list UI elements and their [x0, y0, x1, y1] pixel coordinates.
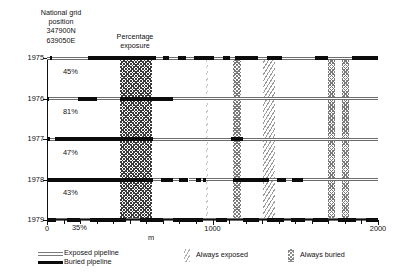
x-axis-tick [229, 220, 230, 224]
x-axis-label-0: 0 [27, 225, 67, 233]
percentage-exposure-value-1979: 35% [72, 224, 87, 232]
pipeline-segment-exposed [173, 97, 378, 100]
pipeline-segment-exposed [156, 57, 163, 60]
x-axis-tick [312, 220, 313, 224]
pipeline-segment-exposed [153, 138, 231, 141]
percentage-exposure-value-1977: 47% [63, 149, 78, 157]
pipeline-segment-exposed [303, 178, 378, 181]
pipeline-segment-buried [194, 56, 214, 60]
x-axis-tick [279, 220, 280, 224]
pipeline-segment-buried [223, 56, 230, 60]
pipeline-segment-exposed [173, 178, 180, 181]
y-axis-label-1977: 1977 [14, 135, 44, 143]
x-axis-tick [246, 220, 247, 224]
pipeline-row-1975 [47, 56, 378, 61]
pipeline-segment-buried [292, 178, 303, 182]
percentage-exposure-value-1978: 43% [63, 189, 78, 197]
legend-swatch-exposed-pipeline [38, 252, 63, 256]
pipeline-row-1976 [47, 96, 378, 101]
pipeline-segment-buried [120, 97, 173, 101]
x-axis-tick [130, 220, 131, 224]
y-axis-label-1978: 1978 [14, 176, 44, 184]
x-axis-tick [196, 220, 197, 224]
pipeline-segment-exposed [214, 57, 223, 60]
y-axis-tick [43, 99, 47, 100]
plot-area [47, 58, 378, 220]
legend-label-always-exposed: Always exposed [196, 251, 248, 259]
x-axis-tick [328, 220, 329, 224]
legend-swatch-buried-pipeline [38, 261, 63, 264]
x-axis-tick [64, 220, 65, 224]
pipeline-segment-exposed [243, 138, 378, 141]
pipeline-segment-exposed [328, 57, 351, 60]
pipeline-segment-buried [233, 178, 269, 182]
percentage-exposure-value-1976: 81% [63, 108, 78, 116]
pipeline-segment-buried [161, 178, 173, 182]
pipeline-segment-exposed [153, 178, 161, 181]
pipeline-segment-exposed [189, 178, 196, 181]
pipeline-segment-buried [55, 137, 153, 141]
x-axis-tick [113, 220, 114, 224]
x-axis-tick [361, 220, 362, 224]
pipeline-segment-buried [178, 56, 186, 60]
pipeline-row-1978 [47, 177, 378, 182]
pipeline-segment-buried [78, 97, 97, 101]
pipeline-segment-buried [231, 137, 243, 141]
pipeline-segment-buried [277, 178, 286, 182]
y-axis-label-1979: 1979 [14, 216, 44, 224]
pipeline-segment-buried [352, 56, 378, 60]
percentage-exposure-value-1975: 45% [63, 68, 78, 76]
pipeline-segment-exposed [97, 97, 120, 100]
legend-swatch-always-exposed [184, 249, 190, 262]
x-axis-tick [80, 220, 81, 224]
x-axis-tick [345, 220, 346, 224]
x-axis-tick [163, 220, 164, 224]
pipeline-segment-buried [88, 56, 156, 60]
pipeline-segment-exposed [169, 57, 178, 60]
x-axis-tick [97, 220, 98, 224]
y-axis-tick [43, 180, 47, 181]
legend-label-buried-pipeline: Buried pipeline [64, 258, 112, 266]
percentage-exposure-caption: Percentage exposure [104, 32, 166, 50]
legend: Exposed pipelineBuried pipelineAlways ex… [0, 248, 393, 272]
pipeline-segment-buried [315, 56, 328, 60]
x-axis-unit-label: m [131, 234, 171, 242]
pipeline-segment-exposed [49, 97, 77, 100]
y-axis-label-1975: 1975 [14, 54, 44, 62]
pipeline-segment-buried [179, 178, 188, 182]
x-axis-tick [295, 220, 296, 224]
pipeline-segment-buried [235, 56, 258, 60]
x-axis-tick [179, 220, 180, 224]
x-axis-label-2000: 2000 [358, 225, 393, 233]
figure-root: National grid position 347900N 639050E P… [0, 0, 393, 277]
pipeline-segment-exposed [52, 57, 88, 60]
x-axis-label-1000: 1000 [193, 225, 233, 233]
y-axis-label-1976: 1976 [14, 95, 44, 103]
pipeline-segment-exposed [258, 57, 267, 60]
pipeline-segment-exposed [206, 178, 233, 181]
pipeline-segment-exposed [186, 57, 194, 60]
x-axis-tick [262, 220, 263, 224]
pipeline-row-1977 [47, 137, 378, 142]
pipeline-segment-exposed [282, 57, 315, 60]
pipeline-segment-buried [47, 178, 153, 182]
pipeline-segment-exposed [269, 178, 277, 181]
x-axis-tick [146, 220, 147, 224]
y-axis-tick [43, 139, 47, 140]
legend-label-always-buried: Always buried [300, 251, 345, 259]
pipeline-segment-buried [267, 56, 282, 60]
legend-swatch-always-buried [288, 249, 294, 262]
national-grid-position-caption: National grid position 347900N 639050E [18, 8, 104, 45]
y-axis-tick [43, 58, 47, 59]
